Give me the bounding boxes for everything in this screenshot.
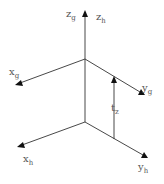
label-z-h: zh bbox=[96, 11, 106, 25]
y-h-axis bbox=[85, 122, 148, 158]
label-y-h: yh bbox=[137, 161, 149, 175]
coordinate-frames-diagram: zg zh xg yg tz xh yh bbox=[0, 0, 164, 184]
x-g-axis bbox=[15, 59, 85, 86]
y-h-arrow-icon bbox=[141, 152, 148, 158]
label-x-g: xg bbox=[9, 66, 20, 80]
y-g-axis bbox=[85, 59, 145, 95]
x-g-arrow-icon bbox=[15, 80, 23, 86]
tz-arrow-icon bbox=[111, 76, 117, 83]
x-h-arrow-icon bbox=[17, 142, 25, 148]
frame-h bbox=[17, 122, 148, 158]
label-z-g: zg bbox=[66, 8, 76, 22]
frame-g bbox=[15, 59, 145, 95]
z-axis-arrow-icon bbox=[82, 10, 88, 17]
label-t-z: tz bbox=[111, 102, 119, 116]
x-h-axis bbox=[17, 122, 85, 148]
z-axis bbox=[82, 10, 88, 122]
label-x-h: xh bbox=[23, 153, 34, 167]
